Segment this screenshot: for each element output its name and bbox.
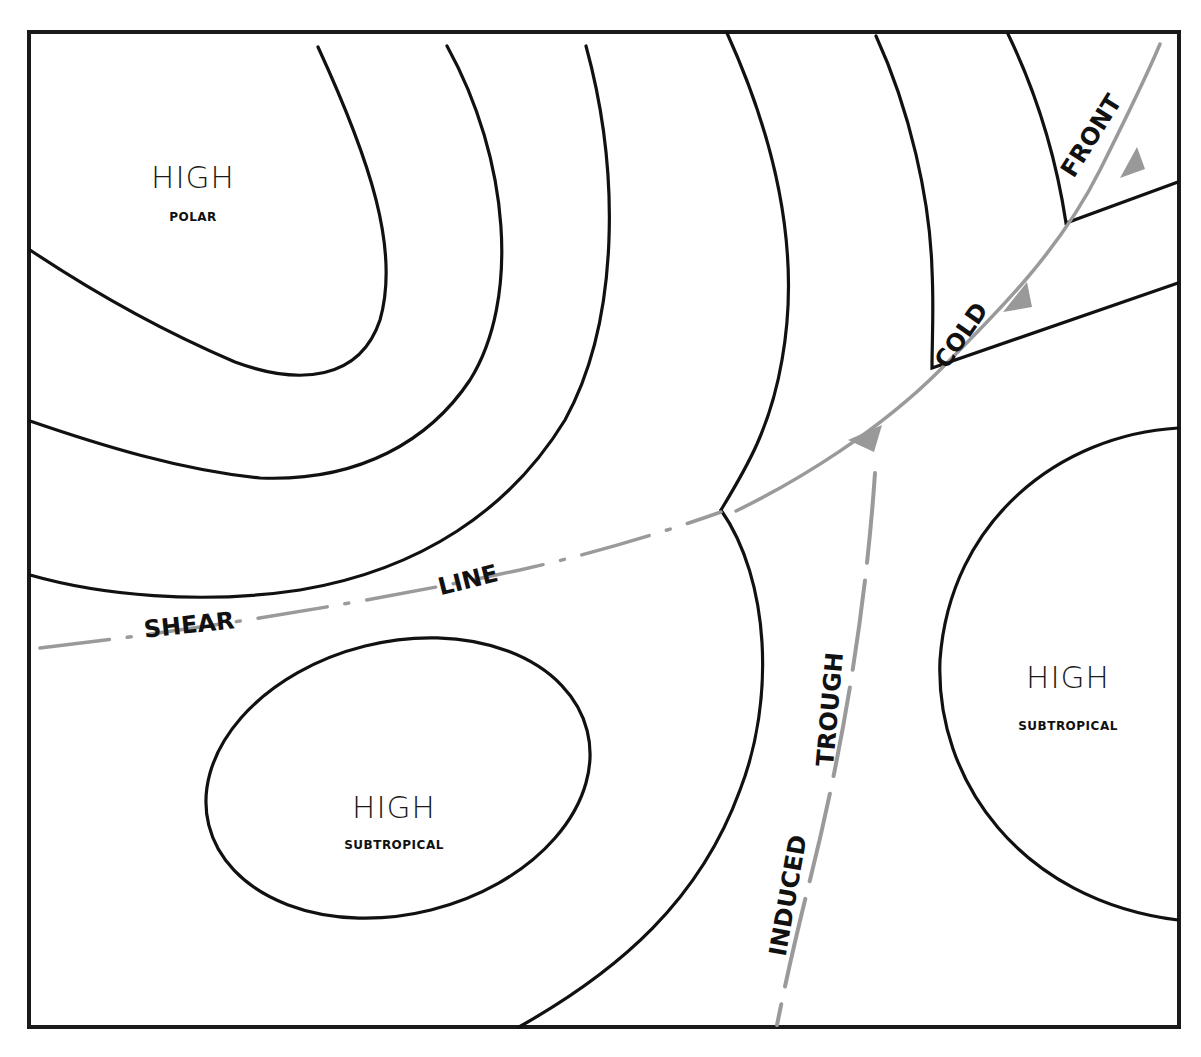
high-label: HIGH xyxy=(151,159,235,195)
isobar-col-lower xyxy=(519,510,763,1027)
isobar-subtropical-left xyxy=(176,599,620,957)
shear-line-label-shear: SHEAR xyxy=(143,606,236,643)
induced-trough-label-trough: TROUGH xyxy=(811,651,849,768)
system-type-label: POLAR xyxy=(169,210,217,224)
shear-line xyxy=(40,512,721,648)
high-label: HIGH xyxy=(1026,659,1110,695)
weather-map-diagram: HIGH POLAR HIGH SUBTROPICAL HIGH SUBTROP… xyxy=(0,0,1201,1057)
system-type-label: SUBTROPICAL xyxy=(344,838,444,852)
isobar-polar-2 xyxy=(30,46,502,478)
cold-front-triangle-1 xyxy=(848,425,882,452)
high-label: HIGH xyxy=(352,789,436,825)
system-type-label: SUBTROPICAL xyxy=(1018,719,1118,733)
polar-high-label: HIGH POLAR xyxy=(151,159,235,224)
subtropical-high-right-label: HIGH SUBTROPICAL xyxy=(1018,659,1118,733)
cold-front-triangle-3 xyxy=(1120,147,1145,178)
isobar-cold-front-wedge xyxy=(876,36,1178,368)
induced-trough-label-induced: INDUCED xyxy=(764,833,813,958)
shear-line-label-line: LINE xyxy=(435,559,501,601)
cold-front-label-cold: COLD xyxy=(929,297,994,373)
isobar-col-left xyxy=(721,33,788,510)
subtropical-high-left-label: HIGH SUBTROPICAL xyxy=(344,789,444,852)
isobar-polar-3 xyxy=(30,46,609,597)
